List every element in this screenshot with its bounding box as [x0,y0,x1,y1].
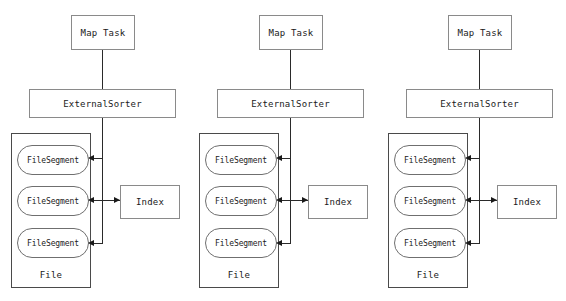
index-label: Index [136,197,164,207]
connector-trunk [479,50,480,244]
index-box: Index [497,185,557,219]
file-segment-label: FileSegment [215,239,267,248]
file-segment-1: FileSegment [205,145,277,175]
diagram-canvas: Map Task ExternalSorter Index FileSegmen… [0,0,566,301]
arrowhead-to-index [114,197,120,203]
arrowhead-to-segment-3 [88,240,94,246]
map-task-label: Map Task [269,28,314,38]
file-segment-3: FileSegment [205,228,277,258]
external-sorter-label: ExternalSorter [440,99,519,109]
file-segment-3: FileSegment [394,228,466,258]
connector-trunk [102,50,103,244]
file-label: File [389,270,467,280]
file-label: File [200,270,278,280]
index-box: Index [120,185,180,219]
connector-trunk [290,50,291,244]
index-label: Index [513,197,541,207]
file-segment-1: FileSegment [17,145,89,175]
arrowhead-to-segment-1 [276,155,282,161]
diagram-group-3: Map Task ExternalSorter Index FileSegmen… [377,0,566,301]
file-segment-label: FileSegment [215,156,267,165]
arrowhead-to-index [491,197,497,203]
arrowhead-to-segment-2 [88,197,94,203]
map-task-box: Map Task [71,15,135,50]
file-segment-label: FileSegment [27,197,79,206]
file-container: FileSegment FileSegment FileSegment File [199,133,279,288]
map-task-box: Map Task [448,15,512,50]
external-sorter-label: ExternalSorter [63,99,142,109]
file-segment-2: FileSegment [205,186,277,216]
file-segment-label: FileSegment [404,156,456,165]
map-task-box: Map Task [259,15,323,50]
file-segment-label: FileSegment [404,239,456,248]
arrowhead-to-segment-2 [276,197,282,203]
file-segment-label: FileSegment [215,197,267,206]
arrowhead-to-segment-2 [465,197,471,203]
arrowhead-to-segment-1 [465,155,471,161]
arrowhead-to-segment-1 [88,155,94,161]
file-label: File [12,270,90,280]
external-sorter-box: ExternalSorter [217,89,364,118]
diagram-group-2: Map Task ExternalSorter Index FileSegmen… [188,0,378,301]
file-segment-label: FileSegment [404,197,456,206]
file-segment-2: FileSegment [394,186,466,216]
external-sorter-box: ExternalSorter [406,89,553,118]
arrowhead-to-segment-3 [465,240,471,246]
file-container: FileSegment FileSegment FileSegment File [388,133,468,288]
file-segment-3: FileSegment [17,228,89,258]
file-segment-2: FileSegment [17,186,89,216]
file-segment-label: FileSegment [27,156,79,165]
diagram-group-1: Map Task ExternalSorter Index FileSegmen… [0,0,190,301]
arrowhead-to-index [302,197,308,203]
index-box: Index [308,185,368,219]
file-segment-1: FileSegment [394,145,466,175]
map-task-label: Map Task [458,28,503,38]
map-task-label: Map Task [81,28,126,38]
external-sorter-box: ExternalSorter [29,89,176,118]
arrowhead-to-segment-3 [276,240,282,246]
file-container: FileSegment FileSegment FileSegment File [11,133,91,288]
file-segment-label: FileSegment [27,239,79,248]
index-label: Index [324,197,352,207]
external-sorter-label: ExternalSorter [251,99,330,109]
